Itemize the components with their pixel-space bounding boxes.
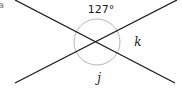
angle-label-top: 127° — [88, 3, 115, 16]
angle-label-k: k — [134, 35, 141, 49]
angle-label-j: j — [94, 71, 101, 85]
intersecting-lines-diagram: 127° k j — [0, 0, 182, 90]
